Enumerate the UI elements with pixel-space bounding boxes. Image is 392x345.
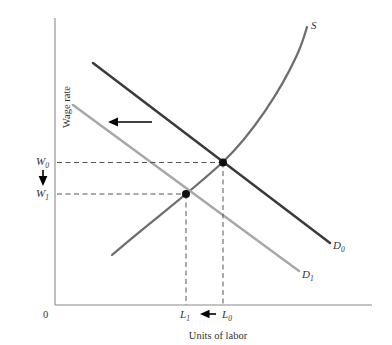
labor-decrease-arrow-icon (200, 310, 216, 318)
wage-decrease-arrow-icon (39, 170, 48, 186)
demand-d0-subscript: 0 (341, 245, 345, 254)
wage-tick-label-w0: W0 (36, 156, 49, 170)
l0-subscript: 0 (228, 314, 232, 323)
demand-d1-base: D (302, 268, 310, 280)
w1-base: W (36, 187, 45, 199)
x-axis-title-wrapper: Units of labor (128, 325, 308, 343)
w0-subscript: 0 (45, 161, 49, 170)
demand-shift-arrow-icon (108, 118, 152, 127)
w1-subscript: 1 (45, 193, 49, 202)
demand-d0-base: D (333, 239, 341, 251)
x-axis-title: Units of labor (189, 330, 247, 341)
equilibrium-point-e1 (182, 190, 190, 198)
wage-tick-label-w1: W1 (36, 188, 49, 202)
w0-base: W (36, 155, 45, 167)
origin-label: 0 (43, 310, 48, 321)
y-axis-title: Wage rate (61, 86, 72, 128)
y-axis-title-wrapper: Wage rate (56, 57, 70, 157)
demand-curve-d1-label: D1 (302, 269, 314, 283)
demand-curve-d0 (93, 63, 330, 243)
equilibrium-point-e0 (219, 159, 227, 167)
supply-curve-label: S (311, 20, 317, 31)
demand-curve-d0-label: D0 (333, 240, 345, 254)
l1-subscript: 1 (186, 314, 190, 323)
chart-canvas (0, 0, 392, 345)
labor-market-demand-shift-chart: S D0 D1 W0 W1 L1 L0 0 Wage rate Units of… (0, 0, 392, 345)
labor-tick-label-l1: L1 (180, 309, 190, 323)
demand-d1-subscript: 1 (310, 274, 314, 283)
supply-curve (112, 27, 307, 255)
labor-tick-label-l0: L0 (222, 309, 232, 323)
